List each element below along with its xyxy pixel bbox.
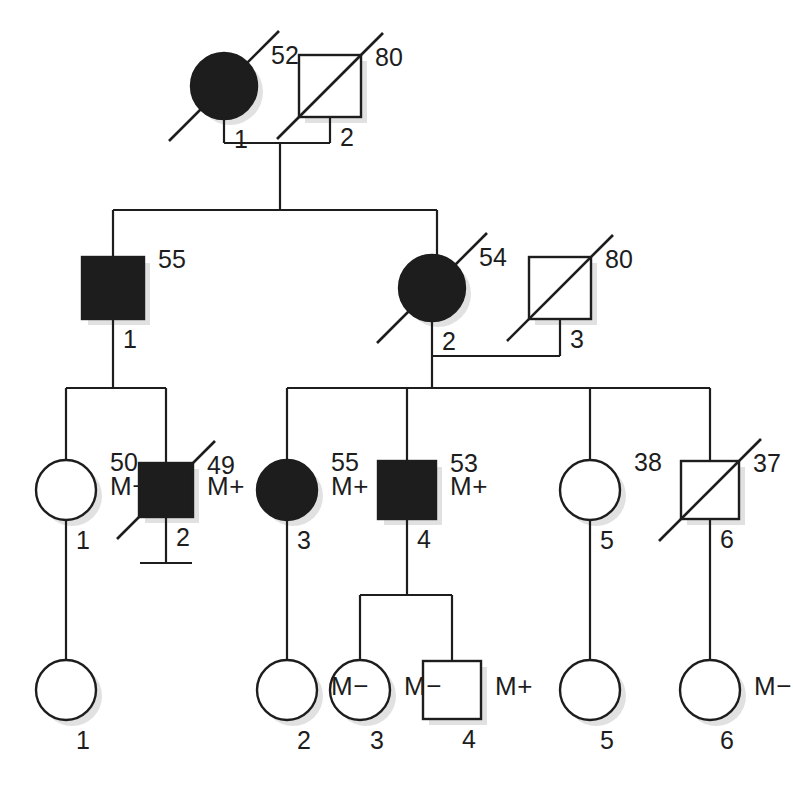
marker-label-IV-2: M− — [331, 671, 369, 701]
id-number-III-5: 5 — [600, 526, 614, 554]
id-number-III-3: 3 — [297, 526, 311, 554]
marker-label-IV-3: M− — [404, 671, 442, 701]
age-label-II-1: 55 — [158, 245, 186, 273]
individual-III-5-female-unaffected[interactable] — [560, 460, 620, 520]
id-number-IV-4: 4 — [462, 725, 476, 753]
id-number-IV-1: 1 — [76, 726, 90, 754]
age-label-I-1: 52 — [271, 41, 299, 69]
id-number-III-6: 6 — [720, 525, 734, 553]
age-label-II-2: 54 — [479, 243, 507, 271]
id-number-II-3: 3 — [570, 325, 584, 353]
age-label-III-5: 38 — [634, 448, 662, 476]
individual-III-4-male-affected[interactable] — [378, 461, 436, 519]
pedigree-chart: 52180255154280350M−149M+255M+353M+438537… — [0, 0, 793, 794]
individual-III-3-female-affected[interactable] — [257, 460, 317, 520]
id-number-II-2: 2 — [442, 327, 456, 355]
individual-III-1-female-unaffected[interactable] — [36, 460, 96, 520]
individual-II-1-male-affected[interactable] — [82, 257, 144, 319]
chart-background — [0, 0, 793, 794]
id-number-IV-5: 5 — [600, 726, 614, 754]
id-number-IV-3: 3 — [370, 726, 384, 754]
age-label-II-3: 80 — [605, 245, 633, 273]
marker-label-IV-6: M− — [754, 671, 792, 701]
id-number-I-1: 1 — [234, 125, 248, 153]
id-number-III-4: 4 — [417, 525, 431, 553]
individual-IV-6-female-unaffected[interactable] — [680, 660, 740, 720]
marker-label-IV-4: M+ — [495, 671, 533, 701]
id-number-III-1: 1 — [76, 526, 90, 554]
individual-IV-1-female-unaffected[interactable] — [36, 660, 96, 720]
id-number-II-1: 1 — [123, 325, 137, 353]
individual-IV-2-female-unaffected[interactable] — [257, 660, 317, 720]
marker-label-III-3: M+ — [331, 471, 369, 501]
id-number-IV-6: 6 — [720, 726, 734, 754]
id-number-III-2: 2 — [176, 523, 190, 551]
age-label-I-2: 80 — [375, 43, 403, 71]
id-number-IV-2: 2 — [297, 726, 311, 754]
pedigree-canvas: 52180255154280350M−149M+255M+353M+438537… — [0, 0, 793, 794]
id-number-I-2: 2 — [340, 123, 354, 151]
marker-label-III-1: M− — [110, 471, 148, 501]
marker-label-III-2: M+ — [207, 471, 245, 501]
marker-label-III-4: M+ — [450, 471, 488, 501]
individual-IV-5-female-unaffected[interactable] — [560, 660, 620, 720]
age-label-III-6: 37 — [753, 449, 781, 477]
